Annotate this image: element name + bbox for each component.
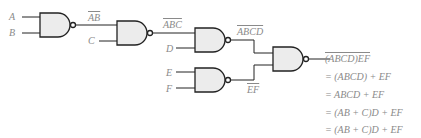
output-expression: (ABCD)EF [325, 53, 370, 65]
input-e-label: E [166, 67, 172, 78]
input-b-label: B [9, 27, 15, 38]
input-f-label: F [166, 83, 172, 94]
abcd-label: ABCD [237, 26, 263, 37]
ab-label: AB [88, 12, 100, 23]
nand-gate-2 [117, 21, 147, 45]
nand-gate-1 [40, 13, 70, 37]
simplification-step-2: = ABCD + EF [325, 89, 384, 101]
ef-label: EF [247, 84, 259, 95]
input-a-label: A [9, 11, 15, 22]
simplification-step-3: = (AB + C)D + EF [325, 107, 403, 119]
simplification-step-1: = (ABCD) + EF [325, 71, 391, 83]
input-c-label: C [88, 35, 95, 46]
simplification-step-4: = (AB + C)D + EF [325, 124, 403, 136]
input-d-label: D [166, 43, 173, 54]
nand-gate-5 [273, 47, 303, 71]
nand-gate-3 [195, 28, 225, 52]
nand-gate-4 [195, 68, 225, 92]
abc-label: ABC [163, 19, 182, 30]
